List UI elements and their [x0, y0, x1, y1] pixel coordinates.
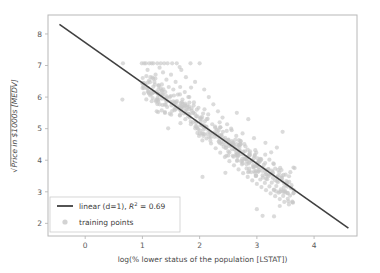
- x-tick-label: 4: [312, 241, 317, 250]
- scatter-point: [263, 141, 267, 145]
- x-tick-label: 0: [83, 241, 88, 250]
- scatter-point: [195, 108, 199, 112]
- scatter-point: [281, 194, 285, 198]
- scatter-point: [216, 128, 220, 132]
- scatter-point: [193, 112, 197, 116]
- scatter-point: [194, 125, 198, 129]
- scatter-point: [120, 98, 124, 102]
- scatter-point: [241, 171, 245, 175]
- scatter-point: [288, 170, 292, 174]
- scatter-point: [169, 73, 173, 77]
- y-tick-label: 3: [37, 188, 42, 197]
- x-tick-label: 1: [140, 241, 145, 250]
- scatter-point: [174, 80, 178, 84]
- scatter-point: [286, 191, 290, 195]
- scatter-point: [247, 151, 251, 155]
- scatter-point: [293, 166, 297, 170]
- scatter-point: [251, 163, 255, 167]
- scatter-point: [206, 112, 210, 116]
- scatter-point: [275, 146, 279, 150]
- scatter-point: [165, 105, 169, 109]
- scatter-point: [167, 85, 171, 89]
- scatter-point: [239, 159, 243, 163]
- y-tick-label: 8: [37, 30, 42, 39]
- scatter-point: [246, 117, 250, 121]
- scatter-point: [246, 175, 250, 179]
- scatter-point: [175, 61, 179, 65]
- x-tick-label: 2: [197, 241, 202, 250]
- scatter-point: [290, 200, 294, 204]
- scatter-point: [282, 200, 286, 204]
- scatter-point: [188, 61, 192, 65]
- scatter-point: [205, 132, 209, 136]
- legend[interactable]: linear (d=1), R2 = 0.69 training points: [50, 197, 180, 232]
- scatter-point: [234, 134, 238, 138]
- scatter-point: [236, 167, 240, 171]
- scatter-point: [229, 127, 233, 131]
- x-tick-label: 3: [254, 241, 259, 250]
- scatter-point: [254, 169, 258, 173]
- scatter-point: [280, 174, 284, 178]
- scatter-point: [221, 130, 225, 134]
- scatter-point: [255, 182, 259, 186]
- scatter-point: [183, 117, 187, 121]
- scatter-point: [187, 101, 191, 105]
- scatter-point: [142, 91, 146, 95]
- scatter-point: [247, 160, 251, 164]
- scatter-point: [263, 181, 267, 185]
- scatter-point: [193, 80, 197, 84]
- figure-container: 01234 2345678 log(% lower status of the …: [0, 0, 380, 273]
- scatter-point: [178, 113, 182, 117]
- scatter-point: [240, 131, 244, 135]
- scatter-point: [279, 189, 283, 193]
- scatter-point: [223, 171, 227, 175]
- scatter-point: [164, 78, 168, 82]
- scatter-point: [189, 86, 193, 90]
- scatter-point: [220, 116, 224, 120]
- scatter-point: [238, 142, 242, 146]
- scatter-point: [231, 155, 235, 159]
- scatter-point: [274, 184, 278, 188]
- scatter-plot: 01234 2345678 log(% lower status of the …: [0, 0, 380, 273]
- scatter-point: [272, 162, 276, 166]
- scatter-point: [178, 65, 182, 69]
- y-axis-label-text: Price in $1000s [MEDV]: [10, 79, 19, 167]
- scatter-point: [253, 148, 257, 152]
- scatter-point: [211, 102, 215, 106]
- scatter-point: [227, 159, 231, 163]
- scatter-point: [216, 109, 220, 113]
- scatter-point: [166, 126, 170, 130]
- scatter-point: [146, 90, 150, 94]
- scatter-point: [169, 113, 173, 117]
- scatter-point: [263, 161, 267, 165]
- scatter-point: [225, 122, 229, 126]
- scatter-point: [185, 105, 189, 109]
- scatter-point: [156, 110, 160, 114]
- scatter-point: [141, 76, 145, 80]
- scatter-point: [254, 174, 258, 178]
- scatter-point: [160, 89, 164, 93]
- y-axis-label: √Price in $1000s [MEDV]: [10, 79, 19, 173]
- scatter-point: [157, 83, 161, 87]
- scatter-point: [202, 87, 206, 91]
- legend-label-training-points: training points: [79, 218, 134, 227]
- y-tick-label: 2: [37, 219, 42, 228]
- scatter-point: [267, 158, 271, 162]
- y-tick-label: 6: [37, 93, 42, 102]
- scatter-point: [154, 98, 158, 102]
- scatter-point: [263, 153, 267, 157]
- scatter-point: [250, 178, 254, 182]
- scatter-point: [286, 199, 290, 203]
- svg-text:√Price in $1000s [MEDV]: √Price in $1000s [MEDV]: [10, 79, 19, 173]
- scatter-point: [273, 194, 277, 198]
- y-axis-sqrt-symbol: √: [10, 168, 19, 173]
- y-tick-label: 4: [37, 156, 42, 165]
- scatter-point: [198, 132, 202, 136]
- scatter-point: [186, 95, 190, 99]
- scatter-point: [267, 184, 271, 188]
- scatter-point: [232, 163, 236, 167]
- legend-linear-tail: = 0.69: [138, 202, 166, 211]
- scatter-point: [198, 61, 202, 65]
- scatter-point: [144, 74, 148, 78]
- scatter-point: [214, 146, 218, 150]
